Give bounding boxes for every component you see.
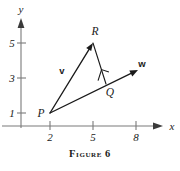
y-axis-label: y [18, 3, 24, 15]
figure-caption-label: Figure [69, 148, 102, 159]
figure-container: 2 5 8 1 3 5 x y P R Q v w Figure6 [0, 0, 180, 171]
point-label-P: P [36, 107, 44, 119]
x-axis-label: x [169, 120, 175, 132]
vector-label-v: v [59, 65, 65, 76]
y-axis-arrowhead [18, 18, 25, 28]
y-tick-label-5: 5 [9, 37, 15, 49]
figure-caption-number: 6 [105, 148, 111, 159]
y-tick-label-1: 1 [9, 107, 15, 119]
vector-v-arrowhead [86, 43, 93, 51]
figure-caption: Figure6 [0, 148, 180, 159]
point-label-Q: Q [106, 86, 115, 98]
y-tick-label-3: 3 [8, 72, 15, 84]
x-axis-arrowhead [153, 123, 163, 130]
x-tick-label-5: 5 [90, 131, 96, 143]
vector-projection-diagram: 2 5 8 1 3 5 x y P R Q v w [0, 0, 180, 145]
x-tick-label-8: 8 [133, 131, 139, 143]
vector-label-w: w [137, 58, 146, 69]
x-tick-label-2: 2 [47, 131, 53, 143]
point-label-R: R [90, 25, 98, 37]
